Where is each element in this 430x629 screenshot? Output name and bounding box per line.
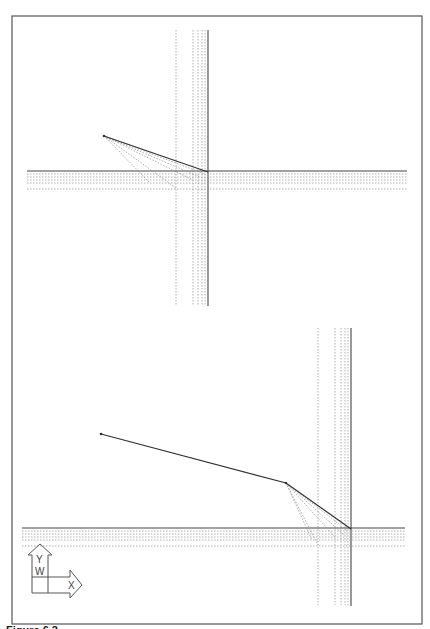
figure-caption: Figure 6.2: [6, 623, 58, 629]
bottom-start-point: [100, 433, 103, 436]
bottom-path-line: [101, 434, 351, 529]
ucs-x-label: X: [68, 580, 75, 591]
bottom-vertex-point: [285, 482, 287, 484]
ucs-y-label: Y: [36, 554, 43, 565]
top-path-line: [104, 136, 208, 172]
top-diagram: [27, 30, 407, 306]
ucs-w-label: W: [35, 566, 45, 577]
ucs-icon: Y W X: [28, 544, 82, 598]
drawing-frame: [12, 16, 422, 624]
top-start-point: [103, 135, 106, 138]
bottom-diagram: [22, 328, 405, 606]
drawing-canvas: Y W X: [0, 0, 430, 629]
